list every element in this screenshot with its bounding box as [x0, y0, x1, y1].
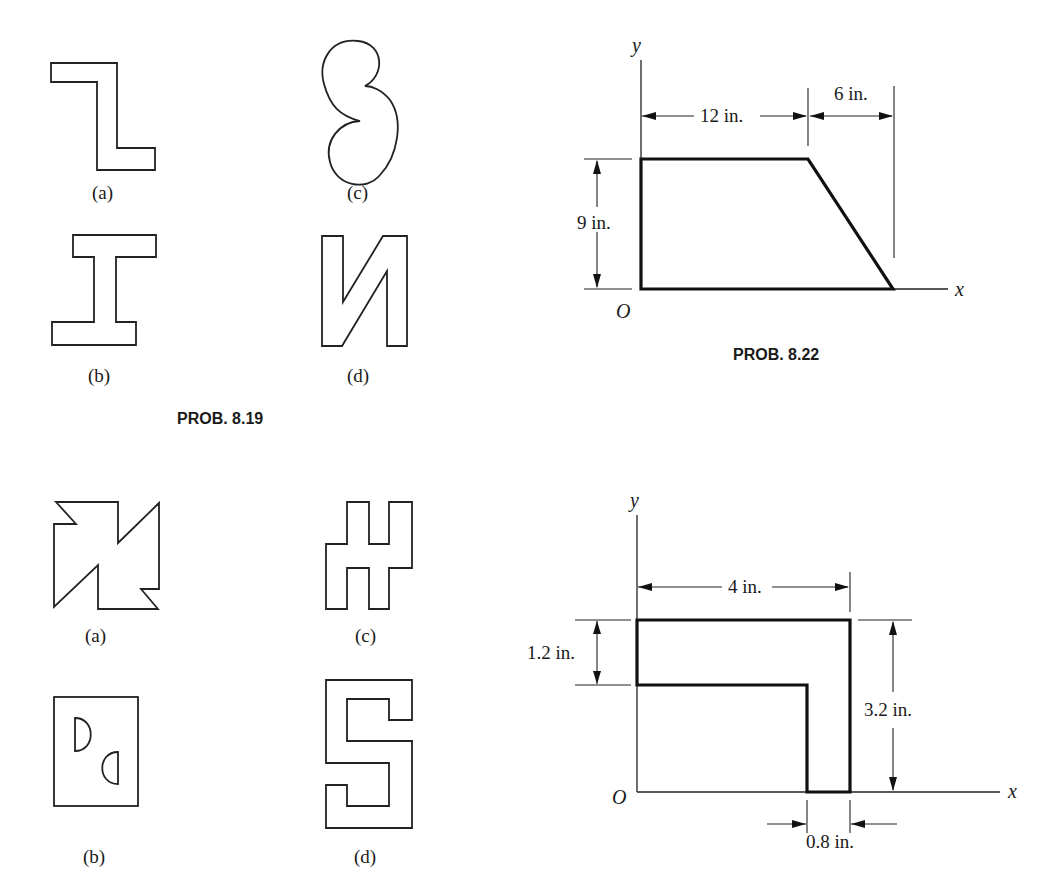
prob-8-20-fig-b: (b) — [54, 697, 138, 868]
x-axis-label: x — [954, 278, 964, 300]
prob-8-22-figure: y x O 12 in. 6 in. 9 in. — [577, 34, 964, 322]
dim-web-thickness: 0.8 in. — [806, 831, 854, 852]
fig-label-a: (a) — [85, 625, 106, 647]
figure-page: (a) (c) (b) (d) PROB. 8.19 y x O 12 in. — [0, 0, 1041, 875]
l-shaped-area — [637, 620, 850, 792]
trapezoid-area — [641, 159, 893, 289]
caption-prob-8-19: PROB. 8.19 — [177, 410, 263, 427]
prob-8-19-fig-a: (a) — [51, 63, 155, 204]
dim-width: 4 in. — [728, 576, 762, 597]
fig-label-c: (c) — [355, 625, 376, 647]
dim-height: 9 in. — [577, 212, 611, 233]
fig-label-d: (d) — [347, 365, 369, 387]
prob-8-20-fig-a: (a) — [54, 502, 159, 647]
prob-8-19-fig-c: (c) — [322, 41, 397, 204]
prob-8-19-fig-d: (d) — [322, 236, 407, 387]
prob-8-20-fig-d: (d) — [326, 680, 412, 868]
prob-8-19-fig-b: (b) — [52, 235, 156, 387]
fig-label-b: (b) — [83, 846, 105, 868]
caption-prob-8-22: PROB. 8.22 — [733, 346, 819, 363]
fig-label-d: (d) — [354, 846, 376, 868]
dim-flange-thickness: 1.2 in. — [527, 642, 575, 663]
y-axis-label: y — [630, 34, 641, 57]
dim-top-width: 12 in. — [700, 105, 743, 126]
semicircle-cutout — [102, 752, 118, 784]
x-axis-label: x — [1007, 780, 1017, 802]
rectangle-plate — [54, 697, 138, 806]
fig-label-a: (a) — [92, 182, 113, 204]
semicircle-cutout — [75, 718, 91, 751]
fig-label-c: (c) — [347, 182, 368, 204]
origin-label: O — [616, 300, 630, 322]
origin-label: O — [612, 786, 626, 808]
dim-slope-run: 6 in. — [834, 83, 868, 104]
prob-8-20-fig-c: (c) — [326, 502, 412, 647]
prob-8-23-figure: y x O 4 in. 1.2 in. 3.2 in. 0. — [527, 489, 1017, 852]
y-axis-label: y — [628, 489, 639, 512]
fig-label-b: (b) — [88, 365, 110, 387]
dim-height: 3.2 in. — [864, 699, 912, 720]
